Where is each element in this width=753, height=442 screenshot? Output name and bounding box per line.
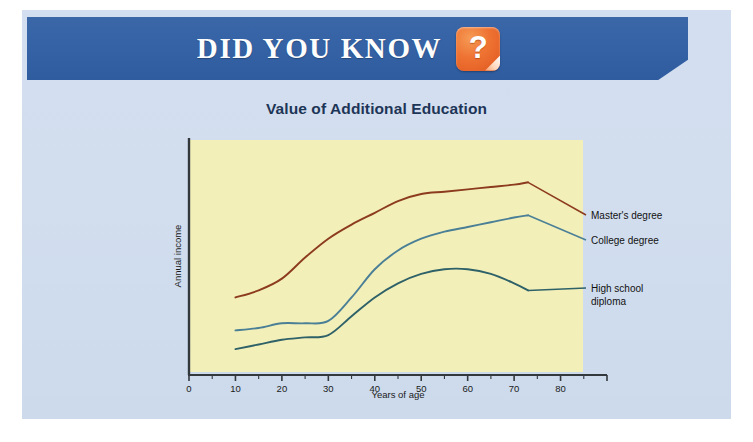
did-you-know-banner: DID YOU KNOW ? (27, 17, 688, 80)
banner-title: DID YOU KNOW (197, 32, 442, 65)
banner-content: DID YOU KNOW ? (27, 17, 688, 80)
question-mark-icon: ? (456, 27, 500, 71)
chart-title: Value of Additional Education (0, 100, 753, 118)
page-root: DID YOU KNOW ? Value of Additional Educa… (0, 0, 753, 442)
